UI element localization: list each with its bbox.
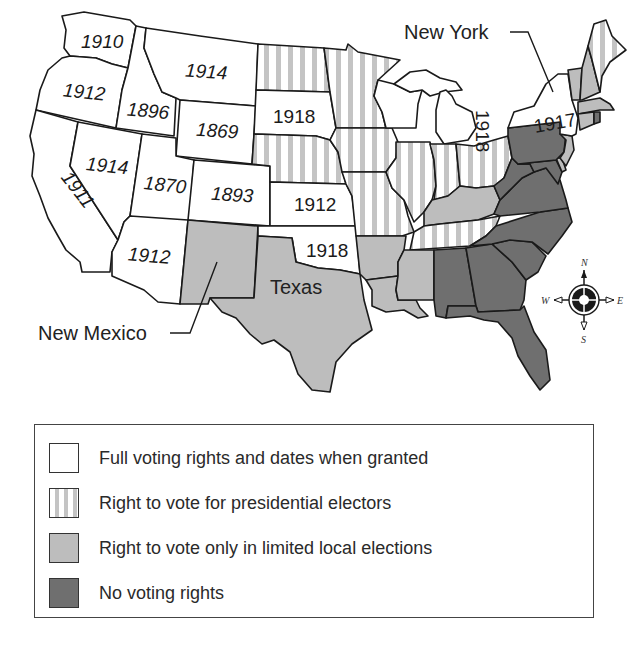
state-north-dakota — [256, 44, 330, 92]
compass-rose-icon: N S W E — [541, 257, 623, 345]
legend-item-local: Right to vote only in limited local elec… — [49, 531, 432, 565]
year-wyoming: 1869 — [195, 119, 239, 143]
state-rhode-island — [594, 112, 600, 124]
year-michigan: 1918 — [472, 110, 493, 152]
state-florida — [446, 306, 550, 390]
legend-label: Right to vote for presidential electors — [99, 493, 391, 514]
state-new-mexico — [180, 220, 258, 304]
label-texas: Texas — [270, 276, 322, 298]
state-connecticut — [578, 112, 594, 130]
state-iowa — [330, 128, 398, 172]
year-idaho: 1896 — [126, 98, 170, 123]
year-oregon: 1912 — [62, 79, 107, 104]
label-new-york: New York — [404, 21, 489, 43]
swatch-local-icon — [49, 533, 79, 563]
year-kansas: 1912 — [294, 194, 336, 215]
year-utah: 1870 — [143, 172, 188, 197]
year-arizona: 1912 — [127, 243, 171, 268]
svg-text:E: E — [616, 295, 623, 306]
state-mississippi — [396, 250, 434, 300]
swatch-full-voting-icon — [49, 443, 79, 473]
year-nevada: 1914 — [85, 153, 129, 178]
us-suffrage-map: 1910 1912 1896 1914 1869 1914 1870 1893 … — [0, 0, 641, 410]
svg-text:S: S — [581, 334, 586, 345]
svg-text:W: W — [541, 295, 551, 306]
year-colorado: 1893 — [210, 183, 254, 207]
swatch-presidential-icon — [49, 488, 79, 518]
legend-item-full: Full voting rights and dates when grante… — [49, 441, 428, 475]
year-washington: 1910 — [81, 31, 124, 52]
year-montana: 1914 — [184, 60, 228, 84]
legend-label: No voting rights — [99, 583, 224, 604]
year-south-dakota: 1918 — [273, 106, 315, 127]
swatch-none-icon — [49, 578, 79, 608]
label-new-mexico: New Mexico — [38, 322, 147, 344]
svg-text:N: N — [580, 257, 589, 268]
legend-label: Right to vote only in limited local elec… — [99, 538, 432, 559]
legend-item-none: No voting rights — [49, 576, 224, 610]
legend-item-presidential: Right to vote for presidential electors — [49, 486, 391, 520]
legend-label: Full voting rights and dates when grante… — [99, 448, 428, 469]
year-oklahoma: 1918 — [306, 240, 348, 261]
state-michigan — [436, 90, 476, 144]
map-legend: Full voting rights and dates when grante… — [34, 424, 594, 618]
